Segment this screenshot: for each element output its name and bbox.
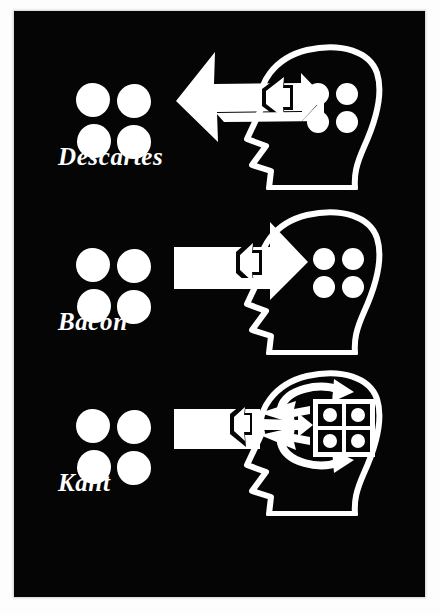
grid-dot-top-left bbox=[323, 408, 337, 422]
figure-root: Descartes bbox=[0, 0, 440, 615]
circular-arrow-head-top bbox=[332, 379, 354, 402]
black-plate: Descartes bbox=[14, 11, 425, 597]
dot-top-left bbox=[76, 248, 110, 282]
caption-kant: Kant bbox=[58, 469, 248, 497]
dot-top-left bbox=[76, 83, 110, 117]
inner-four-dot-cluster bbox=[313, 248, 364, 298]
dot-top-right bbox=[117, 84, 151, 118]
inner-dot-bottom-right bbox=[336, 111, 358, 133]
arrow-left-inner-head-fill bbox=[266, 77, 290, 118]
grid-dot-bottom-left bbox=[323, 434, 337, 448]
caption-descartes: Descartes bbox=[58, 143, 248, 171]
grid-dot-top-right bbox=[351, 408, 365, 422]
arrow-jaw-stub bbox=[174, 438, 260, 449]
inner-dot-bottom-right bbox=[342, 276, 364, 298]
panel-kant: Kant bbox=[14, 351, 425, 516]
dot-top-right bbox=[117, 249, 151, 283]
category-grid bbox=[313, 399, 375, 457]
panel-descartes: Descartes bbox=[14, 25, 425, 190]
arrow-jaw-stub bbox=[174, 278, 270, 289]
caption-bacon: Bacon bbox=[58, 308, 248, 336]
arrow-fan-split bbox=[260, 401, 313, 450]
inner-dot-bottom-left bbox=[313, 276, 335, 298]
inner-dot-top-right bbox=[342, 248, 364, 270]
panel-bacon: Bacon bbox=[14, 190, 425, 355]
dot-top-left bbox=[76, 409, 110, 443]
inner-dot-top-left bbox=[313, 248, 335, 270]
grid-dot-bottom-right bbox=[351, 434, 365, 448]
inner-dot-top-right bbox=[336, 83, 358, 105]
dot-top-right bbox=[117, 410, 151, 444]
